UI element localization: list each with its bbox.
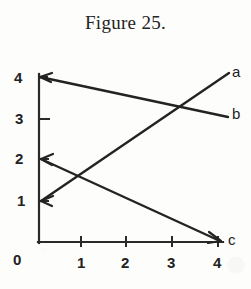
- series-line-c: [41, 159, 220, 241]
- y-axis-label-3: 3: [15, 111, 23, 126]
- y-axis-label-4: 4: [14, 70, 22, 85]
- x-axis-label-1: 1: [77, 255, 85, 270]
- y-axis-label-2: 2: [15, 151, 23, 166]
- series-label-a: a: [232, 64, 240, 79]
- x-axis-label-4: 4: [213, 255, 221, 270]
- series-line-a: [41, 73, 229, 201]
- series-label-c: c: [228, 232, 236, 247]
- y-axis-label-1: 1: [17, 193, 25, 208]
- origin-label: 0: [13, 252, 21, 267]
- x-axis-label-2: 2: [121, 255, 129, 270]
- series-label-b: b: [232, 106, 240, 121]
- plot-canvas: [0, 0, 251, 289]
- x-axis-label-3: 3: [167, 255, 175, 270]
- series-line-b: [40, 77, 228, 117]
- figure-container: Figure 25. 4 3 2 1 0 1 2 3 4 a: [0, 0, 251, 289]
